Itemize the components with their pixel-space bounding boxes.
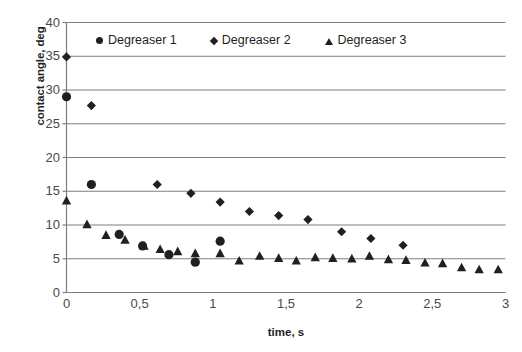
data-point-circle bbox=[191, 258, 200, 267]
data-point-triangle bbox=[311, 253, 320, 262]
data-point-triangle bbox=[155, 244, 164, 253]
data-point-triangle bbox=[191, 248, 200, 257]
data-point-diamond bbox=[245, 207, 254, 216]
data-point-diamond bbox=[274, 211, 283, 220]
data-point-triangle bbox=[173, 246, 182, 255]
legend-entry[interactable]: Degreaser 1 bbox=[96, 33, 177, 47]
plot-area bbox=[0, 0, 522, 352]
data-point-diamond bbox=[62, 52, 71, 61]
data-point-circle bbox=[62, 92, 71, 101]
data-point-diamond bbox=[337, 227, 346, 236]
series-diamond bbox=[62, 52, 408, 250]
legend-entry[interactable]: Degreaser 3 bbox=[325, 33, 407, 47]
chart-legend: Degreaser 1Degreaser 2Degreaser 3 bbox=[96, 33, 406, 47]
data-point-triangle bbox=[255, 251, 264, 260]
data-point-triangle bbox=[457, 263, 466, 272]
data-point-triangle bbox=[494, 265, 503, 274]
triangle-marker-icon bbox=[325, 38, 333, 45]
data-point-triangle bbox=[274, 253, 283, 262]
data-point-diamond bbox=[366, 234, 375, 243]
data-point-triangle bbox=[328, 253, 337, 262]
gridlines bbox=[67, 23, 506, 293]
data-point-triangle bbox=[215, 248, 224, 257]
data-point-circle bbox=[164, 250, 173, 259]
x-axis-title: time, s bbox=[66, 326, 506, 338]
data-point-diamond bbox=[303, 215, 312, 224]
scatter-chart: contact angle, deg 0510152025303540 00,5… bbox=[0, 0, 522, 352]
legend-label: Degreaser 1 bbox=[108, 33, 177, 47]
data-point-diamond bbox=[216, 197, 225, 206]
data-point-diamond bbox=[153, 180, 162, 189]
circle-marker-icon bbox=[96, 37, 103, 44]
data-point-triangle bbox=[365, 251, 374, 260]
data-point-circle bbox=[87, 180, 96, 189]
data-point-triangle bbox=[235, 256, 244, 265]
data-point-triangle bbox=[475, 265, 484, 274]
legend-label: Degreaser 3 bbox=[338, 33, 407, 47]
data-point-triangle bbox=[438, 259, 447, 268]
data-point-diamond bbox=[398, 241, 407, 250]
data-point-triangle bbox=[62, 196, 71, 205]
data-point-diamond bbox=[186, 189, 195, 198]
data-point-triangle bbox=[101, 230, 110, 239]
diamond-marker-icon bbox=[210, 36, 218, 44]
data-series-layer bbox=[62, 52, 503, 273]
series-triangle bbox=[62, 196, 503, 274]
series-circle bbox=[62, 92, 225, 267]
legend-entry[interactable]: Degreaser 2 bbox=[211, 33, 291, 47]
data-point-triangle bbox=[292, 256, 301, 265]
data-point-circle bbox=[216, 237, 225, 246]
data-point-triangle bbox=[82, 219, 91, 228]
data-point-triangle bbox=[401, 255, 410, 264]
legend-label: Degreaser 2 bbox=[222, 33, 291, 47]
data-point-diamond bbox=[87, 101, 96, 110]
data-point-circle bbox=[115, 230, 124, 239]
